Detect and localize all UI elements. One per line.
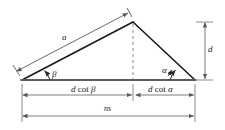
- side-a-end-tick: [127, 8, 132, 17]
- base-right-prefix: d: [148, 84, 153, 94]
- angle-alpha-label: α: [162, 66, 167, 75]
- angle-alpha-leader: [168, 70, 172, 76]
- base-right-label: d cot α: [148, 85, 173, 94]
- base-left-symbol: β: [91, 84, 95, 94]
- base-left-operator: cot: [78, 84, 89, 94]
- base-left-prefix: d: [71, 84, 76, 94]
- base-right-operator: cot: [155, 84, 166, 94]
- base-total-label: ns: [104, 105, 111, 113]
- angle-beta-arc: [45, 71, 51, 81]
- base-right-symbol: α: [168, 84, 173, 94]
- diagram-canvas: [0, 0, 225, 130]
- triangle-left-side: [22, 22, 133, 80]
- angle-beta-label: β: [52, 70, 56, 79]
- side-a-dimension-line: [17, 13, 128, 71]
- height-d-label: d: [208, 45, 213, 54]
- base-left-label: d cot β: [71, 85, 95, 94]
- side-a-start-tick: [13, 65, 20, 76]
- geometry-figure: a β α d d cot β d cot α ns: [0, 0, 225, 130]
- side-a-label: a: [62, 33, 67, 42]
